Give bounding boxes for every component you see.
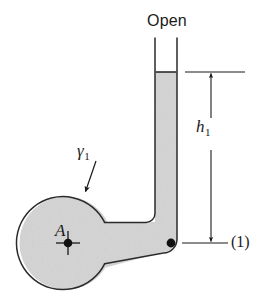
h1-symbol: h: [196, 117, 205, 136]
gamma1-label: γ1: [77, 142, 90, 162]
open-label: Open: [147, 13, 187, 29]
gamma-leader-line: [86, 161, 97, 192]
gamma-subscript: 1: [84, 150, 90, 162]
h1-subscript: 1: [205, 126, 211, 138]
fluid-body: [16, 38, 177, 290]
point-a-label: A: [55, 222, 65, 239]
station-1-dot: [167, 239, 176, 248]
duct-upper-outline: [105, 38, 155, 222]
manometer-diagram: [0, 0, 267, 300]
gamma-symbol: γ: [77, 141, 84, 160]
dimension-h1: [182, 72, 245, 243]
h1-label: h1: [196, 118, 211, 138]
station-1-label: (1): [231, 234, 250, 250]
fluid-fill: [20, 72, 178, 290]
